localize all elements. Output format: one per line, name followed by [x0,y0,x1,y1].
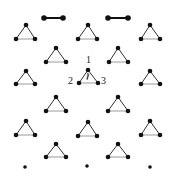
triangle-edge [56,48,66,62]
triangle-node [158,37,163,42]
triangle-edge [150,71,160,84]
triangle-edge [46,97,56,111]
triangle-node [116,46,121,51]
triangle-node [116,95,121,100]
triangle-edge [16,121,26,135]
triangle-node [64,109,69,114]
interior-label: I [86,73,89,81]
triangle-node [148,23,153,28]
triangle-edge [118,48,128,62]
triangle-node [126,60,131,65]
triangle-edge [118,144,128,157]
site-label-3: 3 [101,76,106,86]
triangle-node [14,37,19,42]
triangle-node [106,155,111,160]
triangle-edge [26,71,35,84]
triangle-node [148,119,153,124]
triangle-edge [16,25,26,39]
triangle-node [77,81,82,86]
triangle-node [86,23,91,28]
triangle-edge [141,121,150,135]
triangle-edge [46,144,56,157]
triangle-edge [56,144,66,157]
lattice-diagram: 1 2 3 I [0,0,171,181]
triangle-node [54,142,59,147]
triangle-edge [78,122,88,136]
triangle-edge [150,121,160,135]
triangle-node [126,155,131,160]
triangle-node [14,133,19,138]
site-label-1: 1 [86,55,91,65]
triangle-node [76,134,81,139]
triangle-node [96,81,101,86]
triangle-node [33,37,38,42]
triangle-edge [141,71,150,84]
triangle-node [54,46,59,51]
triangle-node [14,82,19,87]
triangle-node [44,155,49,160]
triangle-edge [108,97,118,111]
triangle-edge [78,25,88,39]
triangle-edge [118,97,128,111]
triangle-node [33,82,38,87]
dimer-node [125,15,131,21]
triangle-node [126,109,131,114]
triangle-node [33,133,38,138]
triangle-node [44,60,49,65]
triangle-edge [88,25,97,39]
triangle-edge [16,71,26,84]
triangle-node [86,120,91,125]
triangle-edge [108,144,118,157]
triangle-node [95,134,100,139]
triangle-edge [88,122,97,136]
triangle-node [24,69,29,74]
triangle-node [116,142,121,147]
triangle-node [139,82,144,87]
triangle-node [148,69,153,74]
triangle-node [158,82,163,87]
triangle-node [64,60,69,65]
triangle-node [139,37,144,42]
triangle-node [54,95,59,100]
triangle-node [158,133,163,138]
triangle-node [139,133,144,138]
dimer-node [105,15,111,21]
triangle-edge [46,48,56,62]
dimer-node [60,15,66,21]
triangle-edge [109,48,118,62]
monomer-node [23,165,27,169]
monomer-node [148,165,152,169]
triangle-edge [56,97,66,111]
monomer-node [85,164,89,168]
triangle-node [64,155,69,160]
triangle-edge [88,70,98,83]
triangle-edge [150,25,160,39]
dimer-node [41,15,47,21]
triangle-node [24,119,29,124]
triangle-edge [26,25,35,39]
triangle-node [107,60,112,65]
site-label-2: 2 [68,76,73,86]
triangle-node [24,23,29,28]
triangle-node [95,37,100,42]
triangle-node [44,109,49,114]
triangle-edge [141,25,150,39]
lattice-graphic [0,0,171,181]
triangle-node [106,109,111,114]
triangle-node [76,37,81,42]
triangle-edge [26,121,35,135]
